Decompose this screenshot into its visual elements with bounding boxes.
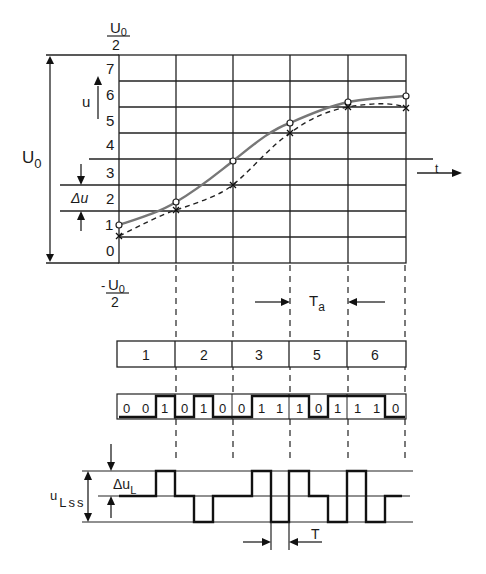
svg-text:0: 0 — [219, 401, 226, 416]
u0-span-arrow — [46, 56, 54, 262]
ta-label: Ta — [309, 292, 325, 314]
svg-text:3: 3 — [106, 164, 114, 181]
svg-text:2: 2 — [111, 294, 119, 310]
t-axis-label: t — [435, 162, 439, 176]
svg-text:2: 2 — [106, 190, 114, 207]
svg-text:2: 2 — [112, 37, 120, 53]
svg-text:1: 1 — [105, 216, 113, 233]
svg-text:0: 0 — [392, 401, 399, 416]
svg-text:0: 0 — [238, 401, 245, 416]
svg-text:1: 1 — [258, 401, 265, 416]
bottom-level-label: - U0 2 — [101, 276, 129, 310]
svg-text:0: 0 — [106, 242, 114, 259]
delta-ul-label: ΔuL — [113, 476, 136, 496]
delta-u-label: Δu — [70, 190, 88, 206]
u0-span-label: U0 — [22, 148, 42, 171]
svg-text:0: 0 — [181, 401, 188, 416]
u-axis-label: u — [82, 93, 90, 110]
svg-text:1: 1 — [142, 347, 150, 363]
svg-text:1: 1 — [354, 401, 361, 416]
svg-text:-: - — [101, 278, 105, 293]
svg-text:6: 6 — [371, 347, 379, 363]
bit-stream-row: 0 0 1 0 1 0 0 1 1 1 0 1 1 1 0 — [117, 394, 406, 419]
t-period-label: T — [311, 526, 320, 542]
svg-text:U0: U0 — [110, 19, 127, 38]
svg-text:6: 6 — [106, 86, 114, 103]
svg-text:5: 5 — [106, 112, 114, 129]
svg-text:0: 0 — [315, 401, 322, 416]
signal-curve — [119, 96, 406, 225]
signal-sample-markers — [116, 93, 409, 228]
svg-text:1: 1 — [373, 401, 380, 416]
sample-number-row: 1 2 3 5 6 — [117, 341, 406, 367]
reconstructed-sample-markers — [116, 104, 409, 239]
svg-text:U0: U0 — [108, 276, 125, 295]
svg-text:5: 5 — [313, 347, 321, 363]
top-level-label: U0 2 — [107, 19, 130, 53]
t-axis-arrow — [417, 169, 462, 177]
svg-text:1: 1 — [200, 401, 207, 416]
u-axis-arrow — [94, 76, 102, 119]
svg-text:3: 3 — [255, 347, 263, 363]
svg-text:0: 0 — [142, 401, 149, 416]
svg-text:7: 7 — [106, 60, 114, 77]
svg-text:0: 0 — [123, 401, 130, 416]
svg-text:4: 4 — [106, 136, 114, 153]
delta-modulation-diagram: U0 U0 2 - U0 2 7 6 5 4 3 2 1 0 u Δu — [0, 0, 486, 574]
ulss-label: uLss — [50, 488, 85, 510]
svg-text:1: 1 — [296, 401, 303, 416]
reconstructed-curve — [119, 104, 406, 236]
svg-text:2: 2 — [200, 347, 208, 363]
svg-text:1: 1 — [161, 401, 168, 416]
svg-text:1: 1 — [276, 401, 283, 416]
svg-text:1: 1 — [334, 401, 341, 416]
